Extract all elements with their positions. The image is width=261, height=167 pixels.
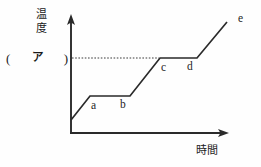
y-axis-label-char-1: 温: [31, 8, 51, 22]
x-axis-label: 時間: [196, 145, 218, 156]
blank-answer-bracket: ( ア ): [6, 49, 68, 67]
point-label-e: e: [238, 13, 243, 25]
point-label-c: c: [161, 62, 166, 74]
point-label-b: b: [120, 99, 126, 111]
y-axis-label-char-2: 度: [31, 22, 51, 36]
point-label-d: d: [187, 61, 193, 73]
bracket-open-paren: (: [6, 52, 10, 65]
bracket-close-paren: ): [64, 52, 68, 65]
heating-curve-figure: 温 度 ( ア ) a b c d e 時間: [0, 0, 261, 167]
y-axis-label: 温 度: [31, 8, 51, 36]
point-label-a: a: [91, 100, 96, 112]
blank-mark-label: ア: [32, 52, 43, 64]
